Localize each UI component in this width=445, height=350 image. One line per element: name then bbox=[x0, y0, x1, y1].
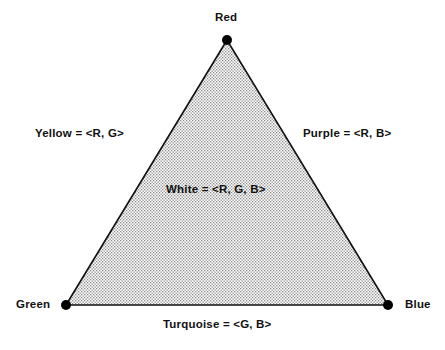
edge-label-turquoise: Turquoise = <G, B> bbox=[163, 318, 272, 330]
edge-label-yellow: Yellow = <R, G> bbox=[35, 127, 124, 139]
vertex-label-red: Red bbox=[215, 11, 237, 23]
vertex-label-blue: Blue bbox=[405, 298, 431, 310]
triangle-diagram bbox=[0, 0, 445, 350]
center-label-white: White = <R, G, B> bbox=[166, 183, 266, 195]
edge-label-purple: Purple = <R, B> bbox=[303, 127, 391, 139]
green-vertex-dot bbox=[61, 300, 71, 310]
blue-vertex-dot bbox=[383, 300, 393, 310]
vertex-label-green: Green bbox=[16, 298, 50, 310]
red-vertex-dot bbox=[222, 35, 232, 45]
triangle-fill bbox=[66, 40, 388, 305]
